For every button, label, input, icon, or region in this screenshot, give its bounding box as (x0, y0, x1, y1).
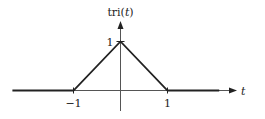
series-line-tri (12, 42, 219, 91)
x-tick-label: −1 (65, 97, 81, 110)
y-label-fn: tri( (107, 6, 125, 19)
y-axis-label: tri(t) (107, 6, 133, 19)
y-tick-label: 1 (107, 36, 114, 49)
x-axis-arrowhead (229, 88, 237, 94)
y-label-close: ) (129, 6, 133, 19)
y-axis-arrowhead (118, 21, 124, 29)
x-tick-label: 1 (164, 97, 171, 110)
triangle-function-plot: −111 t tri(t) (0, 0, 265, 119)
x-axis-label: t (241, 85, 246, 98)
